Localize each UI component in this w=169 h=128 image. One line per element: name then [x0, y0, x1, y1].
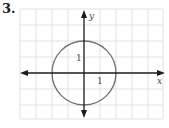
x-tick-label: 1 [97, 76, 103, 86]
x-axis [20, 70, 165, 76]
y-axis [81, 10, 87, 118]
y-axis-up-arrow-icon [81, 10, 87, 18]
coordinate-plane: y x 1 1 [0, 0, 169, 128]
x-axis-left-arrow-icon [20, 70, 28, 76]
y-axis-label: y [88, 11, 95, 21]
x-axis-label: x [157, 76, 162, 86]
grid [20, 9, 163, 119]
y-tick-label: 1 [76, 53, 82, 63]
y-axis-down-arrow-icon [81, 110, 87, 118]
